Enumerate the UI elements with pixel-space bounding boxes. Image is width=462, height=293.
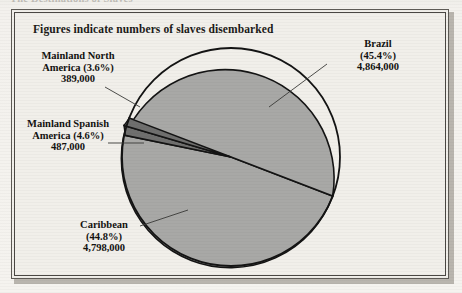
pie-label-caribbean-percent: (44.8%): [52, 231, 156, 243]
pie-label-mainland-north-america: Mainland North America (3.6%) 389,000: [20, 50, 136, 85]
running-head: The Destinations of Slaves: [10, 0, 310, 5]
pie-label-brazil: Brazil (45.4%) 4,864,000: [326, 38, 430, 73]
pie-label-msa-value: 487,000: [6, 141, 130, 153]
pie-label-mna-line1: Mainland North: [20, 50, 136, 62]
pie-label-mna-value: 389,000: [20, 73, 136, 85]
pie-label-msa-line2: America (4.6%): [6, 130, 130, 142]
pie-label-brazil-name: Brazil: [326, 38, 430, 50]
pie-label-caribbean-value: 4,798,000: [52, 242, 156, 254]
pie-label-mna-line2: America (3.6%): [20, 62, 136, 74]
pie-label-msa-line1: Mainland Spanish: [6, 118, 130, 130]
figure-caption: Figures indicate numbers of slaves disem…: [33, 23, 273, 35]
pie-label-caribbean-name: Caribbean: [52, 219, 156, 231]
pie-label-brazil-value: 4,864,000: [326, 61, 430, 73]
pie-label-brazil-percent: (45.4%): [326, 50, 430, 62]
pie-label-caribbean: Caribbean (44.8%) 4,798,000: [52, 219, 156, 254]
pie-label-mainland-spanish-america: Mainland Spanish America (4.6%) 487,000: [6, 118, 130, 153]
